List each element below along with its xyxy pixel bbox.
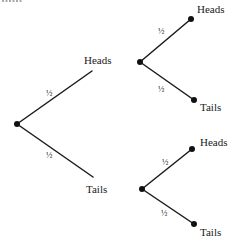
edge-upper-to-tails xyxy=(140,62,194,100)
upper-heads-node xyxy=(188,16,194,22)
lower-tails-node xyxy=(191,221,197,227)
label-first-heads: Heads xyxy=(84,54,112,66)
probability-tree-diagram: Heads Tails ½ ½ Heads Tails ½ ½ Heads Ta… xyxy=(0,0,228,237)
lower-subtree-node xyxy=(139,186,145,192)
edge-root-to-heads xyxy=(17,71,92,124)
upper-tails-node xyxy=(191,97,197,103)
edge-root-to-tails xyxy=(17,124,93,177)
prob-lower-tails: ½ xyxy=(161,208,168,218)
label-upper-heads: Heads xyxy=(197,3,225,15)
prob-upper-tails: ½ xyxy=(158,84,165,94)
edge-lower-to-tails xyxy=(142,189,194,224)
label-first-tails: Tails xyxy=(86,183,107,195)
prob-upper-heads: ½ xyxy=(158,26,165,36)
label-upper-tails: Tails xyxy=(200,101,221,113)
prob-first-tails: ½ xyxy=(46,150,53,160)
edge-lower-to-heads xyxy=(142,149,192,189)
label-lower-tails: Tails xyxy=(200,226,221,237)
prob-lower-heads: ½ xyxy=(162,157,169,167)
edge-upper-to-heads xyxy=(140,19,191,62)
root-node xyxy=(14,121,20,127)
prob-first-heads: ½ xyxy=(46,88,53,98)
label-lower-heads: Heads xyxy=(200,136,228,148)
lower-heads-node xyxy=(189,146,195,152)
upper-subtree-node xyxy=(137,59,143,65)
